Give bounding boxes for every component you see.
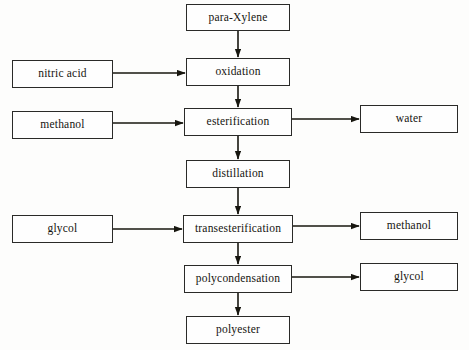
node-label-transesterification: transesterification: [193, 223, 283, 235]
node-glycol-in: glycol: [12, 215, 113, 243]
node-oxidation: oxidation: [186, 58, 290, 86]
node-methanol-in: methanol: [12, 111, 113, 139]
node-label-nitric-acid: nitric acid: [36, 68, 89, 80]
node-label-distillation: distillation: [210, 168, 266, 180]
node-methanol-out: methanol: [360, 212, 458, 240]
node-polyester: polyester: [186, 316, 290, 344]
node-esterification: esterification: [184, 108, 292, 136]
node-label-glycol-in: glycol: [46, 223, 80, 235]
node-para-xylene: para-Xylene: [186, 4, 290, 31]
node-label-water: water: [394, 113, 425, 125]
node-distillation: distillation: [186, 160, 290, 188]
node-polycondensation: polycondensation: [184, 265, 292, 293]
node-label-polycondensation: polycondensation: [194, 273, 282, 285]
node-water: water: [360, 105, 458, 133]
process-flow-diagram: para-Xylenenitric acidoxidationmethanole…: [0, 0, 469, 350]
node-label-oxidation: oxidation: [213, 66, 262, 78]
node-label-glycol-out: glycol: [392, 271, 426, 283]
node-label-methanol-in: methanol: [38, 119, 86, 131]
node-glycol-out: glycol: [360, 263, 458, 291]
node-label-polyester: polyester: [214, 324, 262, 336]
node-label-methanol-out: methanol: [385, 220, 433, 232]
node-nitric-acid: nitric acid: [12, 60, 113, 88]
node-transesterification: transesterification: [183, 215, 293, 243]
node-label-esterification: esterification: [205, 116, 272, 128]
node-label-para-xylene: para-Xylene: [206, 12, 269, 24]
